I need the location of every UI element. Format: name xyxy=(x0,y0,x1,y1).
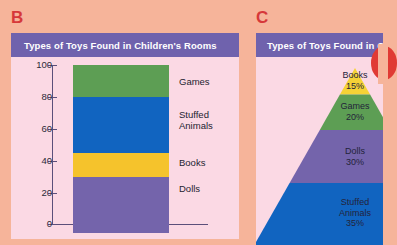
bar-segment-dolls xyxy=(73,177,169,233)
y-tick-mark-inner xyxy=(53,129,57,130)
y-tick-label-100: 100 xyxy=(22,60,52,70)
page-right-edge-mask xyxy=(378,44,388,84)
y-tick-mark-inner xyxy=(53,161,57,162)
y-tick-mark-inner xyxy=(53,65,57,66)
pyramid-chart: Books 15% Games 20% Dolls 30% Stuffed An… xyxy=(256,57,383,245)
chart-b-title-bar: Types of Toys Found in Children's Rooms xyxy=(11,33,239,57)
y-tick-label-40: 40 xyxy=(22,156,52,166)
panel-letter-b: B xyxy=(11,9,23,26)
stacked-bar-chart: 100 80 60 40 20 0 xyxy=(11,57,239,239)
bar-label-stuffed-animals: Stuffed Animals xyxy=(179,109,213,131)
bar-segment-games xyxy=(73,65,169,97)
y-axis-ticks: 100 80 60 40 20 0 xyxy=(11,57,52,239)
pyramid-label-stuffed-animals: Stuffed Animals 35% xyxy=(320,197,383,229)
chart-c-title-bar: Types of Toys Found in Cl xyxy=(256,33,383,57)
chart-b-title: Types of Toys Found in Children's Rooms xyxy=(11,40,217,51)
y-tick-label-80: 80 xyxy=(22,92,52,102)
pyramid-label-games: Games 20% xyxy=(320,101,383,122)
pyramid-label-dolls: Dolls 30% xyxy=(320,146,383,167)
bar-segment-books xyxy=(73,153,169,177)
y-tick-mark-inner xyxy=(53,97,57,98)
y-tick-label-60: 60 xyxy=(22,124,52,134)
chart-c-title: Types of Toys Found in Cl xyxy=(256,40,383,51)
bar-label-games: Games xyxy=(179,76,210,87)
bar-label-dolls: Dolls xyxy=(179,183,200,194)
y-tick-label-20: 20 xyxy=(22,188,52,198)
bar-label-books: Books xyxy=(179,157,205,168)
panel-letter-c: C xyxy=(256,9,268,26)
y-tick-label-0: 0 xyxy=(22,219,52,229)
bar-segment-stuffed-animals xyxy=(73,97,169,153)
y-tick-mark-inner xyxy=(53,193,57,194)
chart-panel-b: Types of Toys Found in Children's Rooms … xyxy=(11,33,239,239)
chart-panel-c: Types of Toys Found in Cl Books 15% Game… xyxy=(256,33,383,245)
stacked-bar xyxy=(73,65,169,225)
y-axis-line xyxy=(52,65,53,225)
